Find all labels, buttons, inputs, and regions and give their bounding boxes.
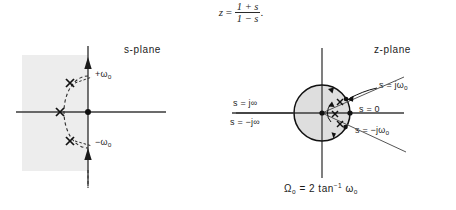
z-plane-point-s-j-omega-zero [344, 97, 349, 102]
s-plane-origin-dot [85, 109, 91, 115]
pole-zero-mapping-figure [0, 0, 456, 210]
s-plane-diagram [16, 46, 166, 188]
z-plane-leader-s-j-omega-zero [350, 88, 377, 98]
z-plane-origin-dot [319, 110, 324, 115]
z-plane-diagram [232, 48, 406, 178]
s-plane-shaded-region [22, 55, 88, 171]
z-plane-point-s-minus-j-omega-zero [343, 125, 348, 130]
z-plane-point-s-zero [347, 110, 352, 115]
